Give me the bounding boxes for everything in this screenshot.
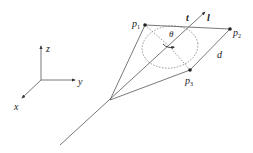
p3-label: p3 bbox=[184, 75, 193, 87]
diagram-canvas: z y x p1 p2 p3 t l θ d bbox=[0, 0, 253, 153]
p1-label: p1 bbox=[131, 18, 140, 30]
p3-radius bbox=[170, 47, 190, 70]
x-axis-arrow bbox=[22, 80, 41, 98]
theta-label: θ bbox=[169, 29, 174, 39]
triangle-edges bbox=[145, 25, 230, 70]
p2-label: p2 bbox=[232, 27, 241, 39]
z-axis-label: z bbox=[45, 43, 50, 54]
t-label: t bbox=[186, 12, 190, 23]
p2-dot bbox=[228, 27, 232, 31]
cone-geometry-diagram: z y x p1 p2 p3 t l θ d bbox=[0, 0, 253, 153]
d-label: d bbox=[217, 49, 223, 60]
p2-p3-edge-d bbox=[190, 29, 230, 70]
y-axis-label: y bbox=[77, 76, 83, 87]
p1-radius bbox=[145, 25, 170, 47]
p1-dot bbox=[143, 23, 147, 27]
coordinate-frame: z y x bbox=[13, 43, 83, 112]
p3-dot bbox=[188, 68, 192, 72]
l-label: l bbox=[207, 12, 210, 23]
x-axis-label: x bbox=[13, 101, 19, 112]
